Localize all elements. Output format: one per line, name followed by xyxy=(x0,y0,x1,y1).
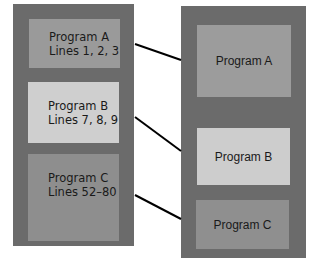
link-program-c xyxy=(135,195,181,219)
link-lines xyxy=(0,0,321,258)
link-program-a xyxy=(135,44,181,60)
link-program-b xyxy=(135,117,181,151)
